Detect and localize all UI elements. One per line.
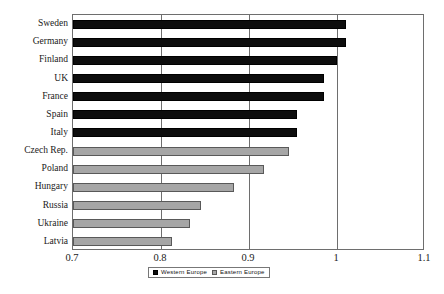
bar-row [73,69,423,87]
bar-row [73,178,423,196]
bar-row [73,142,423,160]
bar-spain [73,110,297,119]
legend-swatch-icon-western-europe [153,270,158,275]
bar-row [73,160,423,178]
category-label-italy: Italy [0,127,68,137]
bar-latvia [73,237,172,246]
category-label-latvia: Latvia [0,236,68,246]
bar-ukraine [73,219,190,228]
category-label-germany: Germany [0,36,68,46]
category-label-spain: Spain [0,109,68,119]
category-axis-labels: SwedenGermanyFinlandUKFranceSpainItalyCz… [0,14,70,250]
category-label-sweden: Sweden [0,18,68,28]
category-label-uk: UK [0,73,68,83]
x-tick-label: 0.7 [52,251,92,264]
bar-row [73,106,423,124]
bar-row [73,124,423,142]
bar-france [73,92,324,101]
bar-row [73,215,423,233]
bar-row [73,33,423,51]
legend-label-western-europe: Western Europe [161,269,207,276]
bar-hungary [73,183,234,192]
bar-sweden [73,20,346,29]
category-label-finland: Finland [0,54,68,64]
bar-row [73,15,423,33]
bar-rows [73,15,423,249]
category-label-czech-rep: Czech Rep. [0,145,68,155]
category-label-hungary: Hungary [0,181,68,191]
bar-row [73,51,423,69]
category-label-russia: Russia [0,200,68,210]
legend-swatch-icon-eastern-europe [212,270,217,275]
bar-germany [73,38,346,47]
plot-area [72,14,424,250]
bar-italy [73,128,297,137]
bar-russia [73,201,201,210]
category-label-poland: Poland [0,163,68,173]
x-tick-label: 0.8 [140,251,180,264]
legend-item-eastern-europe: Eastern Europe [212,269,265,276]
x-tick-label: 1 [316,251,356,264]
bar-row [73,88,423,106]
bar-chart: SwedenGermanyFinlandUKFranceSpainItalyCz… [0,0,444,294]
bar-finland [73,56,337,65]
category-label-france: France [0,91,68,101]
bar-row [73,197,423,215]
legend-label-eastern-europe: Eastern Europe [220,269,265,276]
bar-czech-rep [73,147,289,156]
x-axis-tick-labels: 0.70.80.911.1 [0,251,444,265]
category-label-ukraine: Ukraine [0,218,68,228]
x-tick-label: 1.1 [404,251,444,264]
x-tick-label: 0.9 [228,251,268,264]
bar-uk [73,74,324,83]
bar-poland [73,165,264,174]
legend-item-western-europe: Western Europe [153,269,207,276]
bar-row [73,233,423,251]
chart-legend: Western Europe Eastern Europe [148,267,270,278]
